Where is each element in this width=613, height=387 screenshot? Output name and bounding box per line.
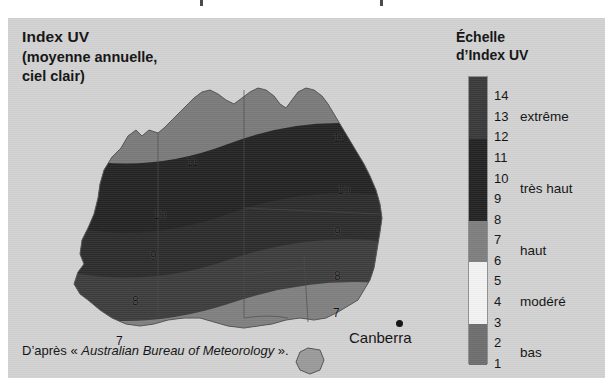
legend-tick-10: 10 bbox=[494, 172, 508, 185]
uv-index-map-figure: 11 11 10 10 9 9 8 8 7 7 Canberra Index U… bbox=[0, 0, 613, 387]
legend-colorbar bbox=[468, 76, 488, 364]
page-title: Index UV bbox=[22, 28, 262, 46]
legend-category-très-haut: très haut bbox=[520, 182, 573, 196]
legend-tick-4: 4 bbox=[494, 295, 501, 308]
contour-label: 7 bbox=[333, 306, 340, 320]
canberra-marker-dot bbox=[396, 320, 403, 327]
caption-suffix: ». bbox=[274, 343, 288, 358]
legend-band-extreme bbox=[469, 77, 487, 139]
legend-tick-9: 9 bbox=[494, 192, 501, 205]
contour-label: 11 bbox=[186, 155, 198, 169]
source-caption: D’après « Australian Bureau of Meteorolo… bbox=[22, 343, 289, 358]
legend-tick-7: 7 bbox=[494, 233, 501, 246]
legend-band-bas bbox=[469, 324, 487, 365]
contour-label: 8 bbox=[334, 269, 341, 283]
legend-band-haut bbox=[469, 221, 487, 262]
map-subtitle: (moyenne annuelle, ciel clair) bbox=[22, 48, 262, 85]
legend-category-haut: haut bbox=[520, 244, 546, 258]
legend-tick-14: 14 bbox=[494, 89, 508, 102]
legend-tick-1: 1 bbox=[494, 357, 501, 370]
legend-tick-11: 11 bbox=[494, 151, 508, 164]
legend-band-tres-haut bbox=[469, 139, 487, 221]
legend-category-labels: extrêmetrès hauthautmodérébas bbox=[520, 76, 605, 364]
contour-label: 9 bbox=[150, 249, 157, 263]
cropped-heading-artifact bbox=[200, 0, 203, 6]
legend-category-bas: bas bbox=[520, 346, 542, 360]
contour-label: 8 bbox=[132, 294, 139, 308]
contour-label: 10 bbox=[153, 208, 166, 222]
legend-tick-3: 3 bbox=[494, 316, 501, 329]
contour-label: 11 bbox=[333, 131, 345, 145]
legend-tick-6: 6 bbox=[494, 254, 501, 267]
legend-tick-2: 2 bbox=[494, 336, 501, 349]
legend-band-modere bbox=[469, 262, 487, 324]
legend-tick-13: 13 bbox=[494, 110, 508, 123]
legend-category-extrême: extrême bbox=[520, 110, 569, 124]
legend-tick-12: 12 bbox=[494, 130, 508, 143]
legend-tick-8: 8 bbox=[494, 213, 501, 226]
canberra-label: Canberra bbox=[349, 329, 412, 346]
cropped-heading-artifact bbox=[380, 0, 383, 6]
figure-panel: 11 11 10 10 9 9 8 8 7 7 Canberra Index U… bbox=[8, 18, 605, 378]
caption-prefix: D’après « bbox=[22, 343, 81, 358]
legend-tick-labels: 1413121110987654321 bbox=[494, 76, 518, 364]
map-title-block: Index UV (moyenne annuelle, ciel clair) bbox=[22, 28, 262, 85]
legend-title: Échelle d’Index UV bbox=[456, 28, 605, 64]
legend-tick-5: 5 bbox=[494, 274, 501, 287]
map-subtitle-line2: ciel clair) bbox=[22, 67, 262, 86]
legend-title-line2: d’Index UV bbox=[456, 46, 605, 64]
map-subtitle-line1: (moyenne annuelle, bbox=[22, 48, 262, 67]
contour-label: 10 bbox=[337, 183, 350, 197]
caption-source: Australian Bureau of Meteorology bbox=[81, 343, 274, 358]
legend-title-line1: Échelle bbox=[456, 28, 605, 46]
legend-category-modéré: modéré bbox=[520, 295, 566, 309]
contour-label: 9 bbox=[334, 225, 341, 239]
